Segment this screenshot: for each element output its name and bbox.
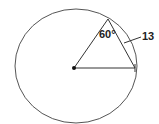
circle-diagram: 60° 13: [0, 0, 159, 124]
angle-label: 60°: [99, 28, 116, 40]
circle: [15, 9, 137, 123]
chord: [108, 19, 135, 68]
radius-upper: [74, 19, 108, 68]
center-point: [72, 66, 76, 70]
chord-leader-line: [124, 37, 141, 43]
chord-length-label: 13: [142, 30, 154, 42]
